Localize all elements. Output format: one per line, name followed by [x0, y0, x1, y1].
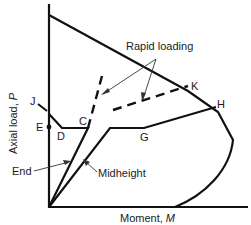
label-e: E: [36, 121, 43, 133]
label-rapid-loading: Rapid loading: [126, 40, 193, 52]
label-c: C: [79, 115, 87, 127]
rapid-loading-arrow-1: [103, 59, 156, 94]
arrowhead-1: [101, 88, 110, 95]
point-e-dot: [47, 125, 52, 130]
label-end: End: [12, 165, 32, 177]
label-d: D: [57, 130, 65, 142]
label-midheight: Midheight: [98, 167, 146, 179]
label-g: G: [140, 131, 149, 143]
label-j: J: [30, 95, 36, 107]
rapid-loading-dashed-end: [88, 76, 102, 128]
end-arrow: [34, 162, 69, 171]
label-k: K: [191, 80, 199, 92]
label-h: H: [217, 98, 225, 110]
interaction-diagram: Rapid loading K H J E D C G End Midheigh…: [0, 0, 251, 225]
end-load-path: [49, 114, 88, 207]
rapid-loading-dashed-midheight: [113, 86, 188, 110]
j-dashed-segment: [38, 104, 47, 111]
y-axis-label: Axial load, P: [7, 92, 19, 154]
x-axis-label: Moment, M: [120, 212, 176, 224]
